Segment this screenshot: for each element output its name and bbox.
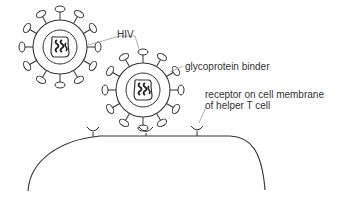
hiv-diagram: [0, 0, 338, 202]
receptor-right: [191, 126, 203, 136]
receptor-left: [87, 127, 99, 137]
hiv-virus-2: [102, 49, 184, 131]
label-receptor-line1: receptor on cell membrane: [205, 89, 324, 100]
label-glycoprotein-binder: glycoprotein binder: [185, 61, 270, 72]
label-hiv: HIV: [117, 29, 134, 40]
hiv-virus-1: [19, 6, 101, 88]
label-receptor-line2: of helper T cell: [205, 100, 270, 111]
helper-t-cell-membrane: [28, 136, 265, 191]
